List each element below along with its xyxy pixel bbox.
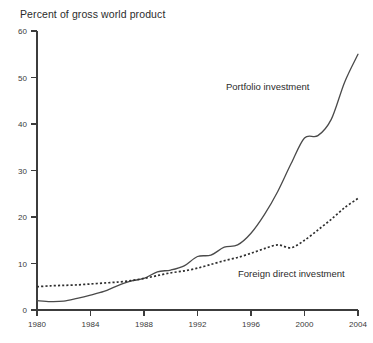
x-tick-label-1980: 1980 [28,320,46,329]
x-tick-label-1988: 1988 [135,320,153,329]
chart-figure: Percent of gross world product 60 50 40 … [0,0,373,343]
y-tick-label-60: 60 [18,27,27,36]
line-chart-plot: 60 50 40 30 20 10 0 1980 1984 1988 1992 … [0,0,373,343]
x-tick-label-1996: 1996 [242,320,260,329]
series-label-foreign-direct-investment: Foreign direct investment [238,268,345,279]
x-tick-label-1992: 1992 [189,320,207,329]
y-tick-label-0: 0 [23,306,28,315]
y-tick-label-50: 50 [18,74,27,83]
y-tick-label-40: 40 [18,120,27,129]
series-label-portfolio-investment: Portfolio investment [226,81,310,92]
x-tick-label-2000: 2000 [296,320,314,329]
y-tick-label-20: 20 [18,213,27,222]
x-tick-label-2004: 2004 [349,320,367,329]
y-axis-ticks [31,31,37,310]
x-axis-ticks [37,310,358,316]
series-line-portfolio-investment [37,54,358,301]
y-axis-tick-labels: 60 50 40 30 20 10 0 [18,27,27,315]
y-tick-label-10: 10 [18,260,27,269]
x-axis-tick-labels: 1980 1984 1988 1992 1996 2000 2004 [28,320,367,329]
x-tick-label-1984: 1984 [82,320,100,329]
caption-clipped-text [8,336,365,343]
y-tick-label-30: 30 [18,167,27,176]
